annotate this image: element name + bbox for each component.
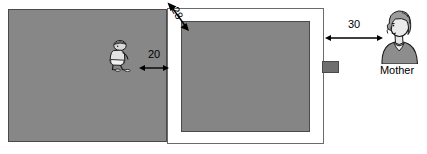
- crouching-child-icon: [101, 38, 133, 72]
- diagram-canvas: 20 28 30: [0, 0, 427, 154]
- dimension-28-arrow: [166, 2, 200, 32]
- enclosure-inner-area: [181, 21, 310, 132]
- mother-label: Mother: [366, 64, 427, 77]
- dimension-20-label: 20: [139, 48, 169, 60]
- woman-bust-icon: [376, 6, 422, 64]
- dimension-20-arrow: [139, 62, 169, 74]
- dimension-30-arrow: [325, 32, 383, 44]
- dimension-20: 20: [139, 48, 169, 76]
- dimension-30-label: 30: [325, 18, 383, 30]
- dimension-28: 28: [166, 2, 200, 32]
- small-dark-tab: [322, 61, 339, 73]
- dimension-30: 30: [325, 18, 383, 46]
